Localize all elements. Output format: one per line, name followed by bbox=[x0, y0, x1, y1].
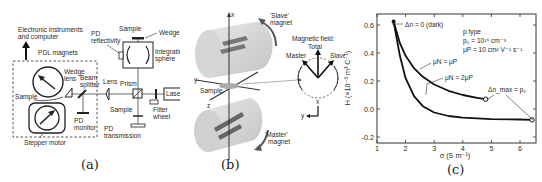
svg-text:y: y bbox=[301, 112, 305, 120]
svg-text:Magnetic field:: Magnetic field: bbox=[292, 35, 335, 43]
x-axis-label: σ (S m⁻¹) bbox=[440, 151, 470, 160]
svg-text:PD: PD bbox=[104, 125, 113, 132]
caption-c: (c) bbox=[447, 162, 464, 177]
svg-text:Electronic instruments: Electronic instruments bbox=[18, 26, 84, 33]
caption-b: (b) bbox=[221, 157, 239, 172]
svg-text:splitter: splitter bbox=[80, 81, 100, 89]
svg-text:3: 3 bbox=[432, 144, 436, 153]
svg-text:Filter: Filter bbox=[153, 106, 168, 113]
svg-text:and computer: and computer bbox=[18, 33, 59, 41]
svg-text:Lens: Lens bbox=[103, 78, 118, 85]
svg-text:Sample: Sample bbox=[200, 87, 223, 95]
slave-field-arrow-icon bbox=[318, 63, 331, 78]
svg-text:PD: PD bbox=[74, 117, 83, 124]
filter-wheel bbox=[150, 100, 158, 104]
svg-text:0.0: 0.0 bbox=[364, 105, 374, 114]
svg-text:Stepper motor: Stepper motor bbox=[24, 139, 67, 147]
master-field-arrow-icon bbox=[305, 63, 318, 78]
svg-text:1: 1 bbox=[375, 144, 379, 153]
svg-text:magnet: magnet bbox=[268, 138, 290, 146]
axis-ticks: 123456-0.20.00.20.40.6 bbox=[362, 14, 536, 153]
svg-text:monitor: monitor bbox=[74, 124, 97, 131]
svg-text:sphere: sphere bbox=[155, 55, 175, 63]
svg-text:0.6: 0.6 bbox=[364, 21, 374, 30]
svg-text:wheel: wheel bbox=[152, 113, 171, 120]
master-magnet bbox=[194, 98, 262, 152]
svg-text:p₀ = 10¹⁶ cm⁻³: p₀ = 10¹⁶ cm⁻³ bbox=[463, 37, 507, 45]
hall-coefficient-chart: 123456-0.20.00.20.40.6 H (×10⁻³ m³ C⁻¹) … bbox=[340, 0, 542, 182]
y-axis-label: H (×10⁻³ m³ C⁻¹) bbox=[343, 51, 352, 106]
svg-text:Prism: Prism bbox=[120, 80, 137, 87]
svg-text:μP = 10 cm² V⁻¹ s⁻¹: μP = 10 cm² V⁻¹ s⁻¹ bbox=[463, 46, 523, 54]
svg-text:p type: p type bbox=[463, 28, 481, 36]
dark-point-marker bbox=[392, 20, 396, 24]
svg-text:0.2: 0.2 bbox=[364, 77, 374, 86]
sample-top bbox=[132, 37, 144, 40]
svg-text:reflectivity: reflectivity bbox=[91, 37, 121, 45]
svg-text:transmission: transmission bbox=[104, 132, 141, 139]
endpoint-marker bbox=[483, 97, 487, 101]
svg-text:-0.2: -0.2 bbox=[362, 133, 374, 142]
pd-monitor bbox=[77, 112, 89, 114]
annotation-dark: Δn = 0 (dark) bbox=[405, 21, 443, 29]
svg-text:z: z bbox=[207, 102, 210, 109]
svg-text:'Master': 'Master' bbox=[265, 131, 288, 138]
svg-text:2: 2 bbox=[404, 144, 408, 153]
annotation-mun-eq-mup: μN = μP bbox=[433, 58, 458, 66]
svg-text:PD: PD bbox=[91, 30, 100, 37]
caption-a: (a) bbox=[81, 157, 99, 172]
panel-b-magnets: x y z Sample 'Slave' magnet 'Master' mag… bbox=[180, 0, 345, 182]
svg-text:lens: lens bbox=[64, 75, 77, 82]
pd-transmission bbox=[131, 124, 145, 127]
svg-text:Wedge: Wedge bbox=[159, 29, 180, 37]
setup-diagram: Electronic instruments and computer PDL … bbox=[0, 0, 180, 182]
pdl-magnet-upper bbox=[33, 67, 63, 97]
svg-text:x: x bbox=[316, 98, 320, 105]
panel-c-chart: 123456-0.20.00.20.40.6 H (×10⁻³ m³ C⁻¹) … bbox=[340, 0, 542, 182]
svg-text:Laser: Laser bbox=[166, 90, 180, 97]
svg-text:Sample: Sample bbox=[119, 25, 142, 33]
svg-text:x: x bbox=[231, 11, 235, 18]
svg-text:magnet: magnet bbox=[270, 19, 292, 27]
svg-text:Sample: Sample bbox=[110, 106, 133, 114]
svg-text:5: 5 bbox=[489, 144, 493, 153]
slave-magnet bbox=[195, 22, 273, 78]
annotation-mun-eq-2mup: μN = 2μP bbox=[445, 74, 474, 82]
magnet-diagram: x y z Sample 'Slave' magnet 'Master' mag… bbox=[180, 0, 345, 182]
svg-text:Beam: Beam bbox=[80, 74, 98, 81]
svg-text:0.4: 0.4 bbox=[364, 49, 374, 58]
svg-text:'Slave': 'Slave' bbox=[270, 12, 289, 19]
annotation-dn-max: Δn_max = p₀ bbox=[488, 86, 526, 94]
svg-text:Total: Total bbox=[308, 43, 322, 50]
panel-a-optical-setup: Electronic instruments and computer PDL … bbox=[0, 0, 180, 182]
endpoint-marker bbox=[530, 118, 534, 122]
svg-text:6: 6 bbox=[518, 144, 522, 153]
svg-text:PDL magnets: PDL magnets bbox=[38, 49, 78, 57]
svg-text:Master: Master bbox=[286, 52, 307, 59]
